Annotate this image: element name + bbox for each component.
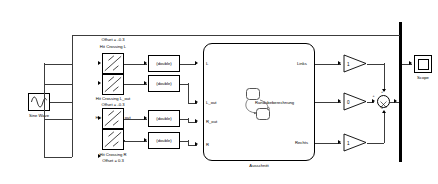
sum-block[interactable] (377, 95, 390, 108)
arrow-scope-in (409, 61, 412, 65)
converter-block-2[interactable]: (double) (148, 75, 180, 92)
converter-label: (double) (156, 138, 171, 143)
scope-label: Scope (417, 75, 429, 80)
scope-icon (418, 59, 429, 70)
gain-block-links[interactable]: 1 (343, 54, 367, 73)
hit-crossing-block-r[interactable] (102, 129, 124, 150)
arrow-chart-in-lout (195, 100, 198, 104)
wire-source-out (50, 102, 72, 103)
wire-hcr-drop (124, 140, 125, 141)
sum-sign-top: + (381, 90, 383, 94)
arrow-conv4-in (144, 138, 147, 142)
chart-input-label-lout: L_out (206, 100, 216, 105)
hc-r-label: Hit Crossing R (100, 152, 127, 157)
converter-block-4[interactable]: (double) (148, 132, 180, 149)
arrow-conv2-in (144, 81, 147, 85)
chart-input-label-l: L (206, 61, 208, 66)
hit-crossing-icon (103, 109, 123, 128)
arrow-sum-in-bottom (382, 110, 386, 113)
chart-caption: Ausschnitt (249, 163, 268, 168)
arrow-chart-in-rout (195, 119, 198, 123)
wire-gainrechts-out (367, 143, 384, 144)
gain-block-middle[interactable]: 0 (343, 92, 367, 111)
wire-conv1-out (180, 64, 196, 65)
hit-crossing-icon (103, 75, 123, 94)
wire-top-feed (72, 35, 400, 36)
hc-l-label: Hit Crossing L (100, 44, 126, 49)
sine-wave-source[interactable] (28, 93, 50, 111)
hc-l-out-label: Hit Crossing L_out (96, 96, 130, 101)
gain-value: 1 (347, 140, 350, 145)
sum-sign-left: + (373, 94, 375, 98)
arrow-conv1-in (144, 61, 147, 65)
chart-output-label-rechts: Rechts (295, 140, 308, 145)
arrow-gain-middle-in (338, 99, 341, 103)
gain-value: 0 (347, 99, 350, 104)
wire-conv2-out-v (188, 83, 189, 103)
bus-bar[interactable] (399, 22, 402, 162)
wire-gainlinks-out (367, 64, 384, 65)
arrow-gain-links-in (338, 61, 341, 65)
chart-input-label-rout: R_out (206, 119, 217, 124)
hit-crossing-block-l-out[interactable] (102, 74, 124, 95)
arrow-bus-in (394, 99, 397, 103)
converter-label: (double) (156, 61, 171, 66)
sum-sign-bottom: + (381, 106, 383, 110)
gain-block-rechts[interactable]: 1 (343, 133, 367, 152)
wire-branch-hc-l (44, 64, 72, 65)
hit-crossing-icon (103, 130, 123, 149)
arrow-sum-in-left (372, 99, 375, 103)
gain-value: 1 (347, 61, 350, 66)
scope-block[interactable] (414, 55, 432, 73)
arrow-gain-rechts-in (338, 140, 341, 144)
arrow-chart-in-r (195, 142, 198, 146)
simulink-model-canvas: Sine Wave Offset = -0.3 Hit Crossing L H… (0, 0, 438, 184)
arrow-chart-in-l (195, 61, 198, 65)
converter-block-1[interactable]: (double) (148, 55, 180, 72)
hc-l-offset: Offset = -0.3 (101, 37, 124, 42)
converter-label: (double) (156, 116, 171, 121)
wire-branch-hc-lout (44, 84, 72, 85)
chart-input-label-r: R (206, 142, 209, 147)
arrow-conv3-in (144, 116, 147, 120)
converter-label: (double) (156, 81, 171, 86)
hc-r-offset: Offset = 0.3 (102, 158, 124, 163)
wire-source-bus (72, 35, 73, 157)
converter-block-3[interactable]: (double) (148, 110, 180, 127)
wire-gainlinks-down (384, 63, 385, 91)
wire-gainrechts-up (384, 113, 385, 143)
arrow-hc-lout-in (98, 81, 101, 85)
sine-wave-label: Sine Wave (29, 113, 49, 118)
wire-branch-hc-r (44, 157, 72, 158)
hc-l-out-offset: Offset = -0.3 (101, 102, 124, 107)
hit-crossing-block-r-out[interactable] (102, 108, 124, 129)
wire-branch-hc-rout (44, 119, 72, 120)
wire-left-rail (44, 63, 45, 157)
sum-cross-icon (378, 99, 389, 110)
hit-crossing-block-l[interactable] (102, 53, 124, 74)
arrow-hc-l-in (98, 61, 101, 65)
hit-crossing-icon (103, 54, 123, 73)
chart-output-label-links: Links (297, 61, 307, 66)
sine-wave-icon (29, 94, 49, 110)
chart-transitions (240, 86, 280, 124)
